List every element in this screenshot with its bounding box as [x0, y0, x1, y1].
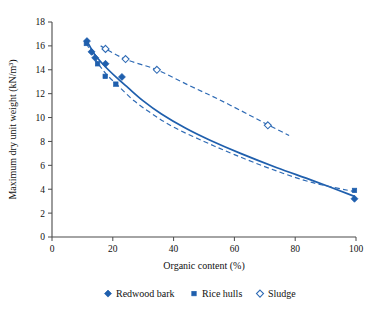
y-axis-tick-labels: 024681012141618: [36, 17, 46, 242]
y-tick-label: 0: [40, 232, 45, 242]
plot-area: 024681012141618 020406080100: [36, 17, 364, 254]
y-tick-label: 14: [36, 65, 46, 75]
x-tick-label: 80: [290, 244, 300, 254]
series-rice-hulls: [84, 41, 357, 192]
y-tick-label: 2: [40, 209, 45, 219]
legend-marker-open-diamond: [257, 290, 264, 297]
trend-rice-hulls-fit: [86, 44, 354, 192]
data-point: [95, 62, 99, 66]
x-tick-label: 40: [169, 244, 179, 254]
y-tick-label: 8: [40, 137, 45, 147]
legend-marker-filled-square: [192, 291, 196, 295]
x-axis-title: Organic content (%): [163, 260, 244, 272]
data-point: [84, 41, 88, 45]
chart-legend: Redwood barkRice hullsSludge: [105, 288, 297, 299]
y-tick-label: 16: [36, 41, 46, 51]
y-tick-label: 12: [36, 89, 46, 99]
legend-marker-filled-diamond: [105, 290, 112, 297]
legend-label: Rice hulls: [202, 288, 242, 299]
chart-figure: 024681012141618 020406080100 Organic con…: [0, 0, 376, 311]
y-tick-label: 18: [36, 17, 46, 27]
x-tick-label: 100: [349, 244, 364, 254]
data-point: [122, 56, 129, 63]
data-markers: [83, 38, 358, 203]
x-tick-label: 60: [230, 244, 240, 254]
data-point: [102, 45, 109, 52]
trend-lines: [86, 41, 354, 196]
x-tick-label: 0: [50, 244, 55, 254]
x-axis-ticks: [52, 237, 356, 241]
data-point: [103, 74, 107, 78]
data-point: [102, 60, 109, 67]
y-tick-label: 6: [40, 161, 45, 171]
trend-redwood-bark-fit: [87, 41, 355, 196]
data-point: [352, 188, 356, 192]
legend-label: Sludge: [268, 288, 296, 299]
y-axis-ticks: [48, 22, 52, 237]
data-point: [92, 54, 99, 61]
data-point: [153, 66, 160, 73]
y-axis-title: Maximum dry unit weight (kN/m³): [7, 59, 19, 199]
data-point: [114, 82, 118, 86]
x-axis-tick-labels: 020406080100: [50, 244, 364, 254]
y-tick-label: 4: [40, 185, 45, 195]
legend-label: Redwood bark: [116, 288, 175, 299]
y-tick-label: 10: [36, 113, 46, 123]
x-tick-label: 20: [108, 244, 118, 254]
